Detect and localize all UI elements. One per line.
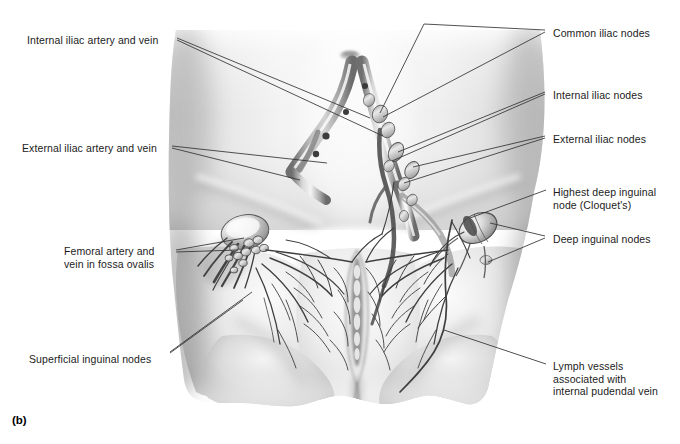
- label-external-iliac-nodes: External iliac nodes: [553, 133, 646, 146]
- figure-caption: (b): [12, 414, 27, 426]
- label-femoral-artery-and-vein-in-fossa-ovalis: Femoral artery and vein in fossa ovalis: [64, 245, 155, 270]
- label-internal-iliac-artery-and-vein: Internal iliac artery and vein: [27, 34, 158, 47]
- label-deep-inguinal-nodes: Deep inguinal nodes: [553, 233, 651, 246]
- label-lymph-vessels-internal-pudendal-vein: Lymph vessels associated with internal p…: [553, 360, 658, 398]
- label-highest-deep-inguinal-node-cloquets: Highest deep inguinal node (Cloquet's): [553, 186, 656, 211]
- label-internal-iliac-nodes: Internal iliac nodes: [553, 89, 643, 102]
- label-external-iliac-artery-and-vein: External iliac artery and vein: [22, 142, 157, 155]
- label-common-iliac-nodes: Common iliac nodes: [553, 27, 650, 40]
- label-superficial-inguinal-nodes: Superficial inguinal nodes: [29, 353, 151, 366]
- body-silhouette: [154, 15, 560, 428]
